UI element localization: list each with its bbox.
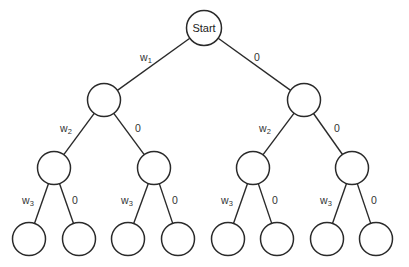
edge-n2RR-leaf7 [332,184,346,224]
tree-node-n1R [288,84,321,117]
edge-n2LR-leaf3 [134,183,149,223]
edge-label-n2RL-leaf5: w3 [220,194,233,208]
tree-node-leaf5 [212,223,245,256]
edge-label-n2RL-leaf6: 0 [272,194,278,206]
edge-n2RL-leaf6 [258,184,271,224]
tree-node-n2RL [237,152,270,185]
node-circle [212,223,245,256]
node-circle [311,223,344,256]
tree-node-leaf4 [162,223,195,256]
tree-node-leaf6 [261,223,294,256]
edge-n1L-n2LR [114,113,144,154]
edge-label-n2LL-leaf1: w3 [21,194,34,208]
edge-n2LR-leaf4 [159,184,172,224]
node-circle [63,223,96,256]
node-circle [88,84,121,117]
edge-label-n1R-n2RR: 0 [334,122,340,134]
node-circle [138,152,171,185]
node-circle [360,223,393,256]
node-circle [38,152,71,185]
node-circle [336,152,369,185]
edge-labels-layer: w10w20w20w30w30w30w30 [21,51,377,208]
edge-label-start-n1L: w1 [139,51,152,65]
edge-n2RR-leaf8 [357,184,370,224]
edge-label-n1R-n2RL: w2 [258,122,271,136]
edge-n1R-n2RR [314,113,343,154]
start-node: Start [187,11,222,46]
node-circle [112,223,145,256]
edge-label-n2RR-leaf8: 0 [371,194,377,206]
edge-label-n1L-n2LL: w2 [59,122,72,136]
tree-node-leaf3 [112,223,145,256]
edge-start-n1L [117,38,189,90]
node-circle [162,223,195,256]
tree-node-leaf2 [63,223,96,256]
edge-label-n2RR-leaf7: w3 [319,194,332,208]
edge-label-n2LR-leaf3: w3 [120,194,133,208]
edge-start-n1R [218,38,290,90]
tree-node-n2LR [138,152,171,185]
node-circle [237,152,270,185]
node-label: Start [192,22,215,34]
node-circle [13,223,46,256]
tree-node-n1L [88,84,121,117]
edge-label-n1L-n2LR: 0 [135,122,141,134]
tree-node-n2LL [38,152,71,185]
edge-label-n2LL-leaf2: 0 [72,194,78,206]
tree-node-leaf8 [360,223,393,256]
tree-node-leaf7 [311,223,344,256]
node-circle [288,84,321,117]
node-circle [261,223,294,256]
decision-tree-diagram: w10w20w20w30w30w30w30 Start [0,0,409,267]
tree-node-n2RR [336,152,369,185]
edge-n2RL-leaf5 [233,184,247,224]
edge-label-start-n1R: 0 [254,51,260,63]
edge-label-n2LR-leaf4: 0 [172,194,178,206]
edge-n2LL-leaf1 [34,184,48,224]
tree-node-leaf1 [13,223,46,256]
